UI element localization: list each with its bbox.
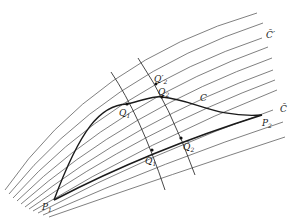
label-p2: P2 (261, 118, 272, 129)
label-c-bar: C̄ (280, 103, 287, 114)
label-c: C (200, 93, 207, 103)
curve-c-bar (54, 115, 262, 200)
diagram: C̄′ C̄ C P1 P2 Q1 Q2 Q′2 Q̄1 Q̄2 (0, 0, 293, 218)
label-q1: Q1 (119, 108, 130, 119)
family-curve-3 (13, 38, 262, 198)
point-q1-bar (150, 148, 153, 151)
family-curve-4 (17, 47, 268, 201)
label-q2: Q2 (158, 87, 169, 98)
point-q2-bar (179, 136, 182, 139)
label-q2-bar: Q̄2 (183, 141, 194, 153)
label-q2-prime: Q′2 (154, 74, 167, 85)
label-c-bar-prime: C̄′ (266, 29, 275, 40)
label-p1: P1 (41, 202, 52, 213)
point-q1 (125, 102, 128, 105)
family-curve-2 (9, 23, 263, 194)
